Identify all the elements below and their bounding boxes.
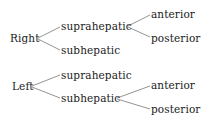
node-right-supra-posterior: posterior xyxy=(151,32,200,44)
node-right-suprahepatic: suprahepatic xyxy=(61,20,132,32)
node-left-sub-posterior: posterior xyxy=(151,103,200,115)
edge-left-sub-anterior xyxy=(117,86,150,98)
edge-right-suprahepatic xyxy=(38,27,60,38)
node-left-root: Left xyxy=(12,80,34,92)
node-right-supra-anterior: anterior xyxy=(151,8,195,20)
edge-left-suprahepatic xyxy=(32,75,60,86)
diagram-canvas: Right suprahepatic subhepatic anterior p… xyxy=(0,0,208,120)
edge-left-sub-posterior xyxy=(117,99,150,109)
edge-left-subhepatic xyxy=(32,87,60,98)
node-left-suprahepatic: suprahepatic xyxy=(61,69,132,81)
node-left-subhepatic: subhepatic xyxy=(61,92,120,104)
node-right-root: Right xyxy=(10,32,39,44)
node-left-sub-anterior: anterior xyxy=(151,79,195,91)
node-right-subhepatic: subhepatic xyxy=(61,44,120,56)
edge-right-subhepatic xyxy=(38,39,60,50)
